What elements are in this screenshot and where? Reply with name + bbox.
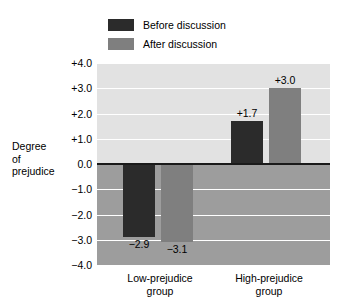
category-label-high-prejudice: High-prejudice group [209,272,329,297]
plot-area: −2.9−3.1+1.7+3.0 [97,63,330,265]
y-axis-tick-3: +1.0 [71,133,92,145]
legend-label-before: Before discussion [143,19,226,31]
y-axis-tick-1: +3.0 [71,82,92,94]
bar-value-high_after: +3.0 [255,74,315,86]
y-axis-tick-6: −2.0 [71,209,92,221]
bar-value-high_before: +1.7 [217,107,277,119]
y-axis-title: Degree of prejudice [12,140,55,178]
bar-low_after [161,164,193,242]
legend-label-after: After discussion [143,38,217,50]
y-axis-title-line2: of [12,153,55,166]
category-label-low-prejudice: Low-prejudice group [100,272,220,297]
category-label-high-line2: group [209,285,329,298]
legend-swatch-after-icon [108,38,134,50]
legend-item-before: Before discussion [108,17,226,32]
zero-baseline [97,163,330,165]
gridline [97,63,330,64]
bar-high_after [269,88,301,164]
y-axis-tick-7: −3.0 [71,234,92,246]
y-axis-tick-5: −1.0 [71,183,92,195]
bar-value-low_after: −3.1 [147,243,207,255]
y-axis-tick-4: 0.0 [77,158,92,170]
bar-low_before [123,164,155,237]
legend-swatch-before-icon [108,19,134,31]
y-axis-tick-8: −4.0 [71,259,92,271]
category-label-low-line2: group [100,285,220,298]
gridline [97,265,330,266]
y-axis-tick-0: +4.0 [71,57,92,69]
category-label-high-line1: High-prejudice [209,272,329,285]
bar-high_before [231,121,263,164]
category-label-low-line1: Low-prejudice [100,272,220,285]
y-axis-tick-labels: +4.0+3.0+2.0+1.00.0−1.0−2.0−3.0−4.0 [50,63,92,265]
legend-item-after: After discussion [108,36,226,51]
y-axis-title-line3: prejudice [12,165,55,178]
chart-legend: Before discussion After discussion [108,17,226,55]
y-axis-tick-2: +2.0 [71,108,92,120]
prejudice-bar-chart: Before discussion After discussion Degre… [0,0,349,306]
y-axis-title-line1: Degree [12,140,55,153]
